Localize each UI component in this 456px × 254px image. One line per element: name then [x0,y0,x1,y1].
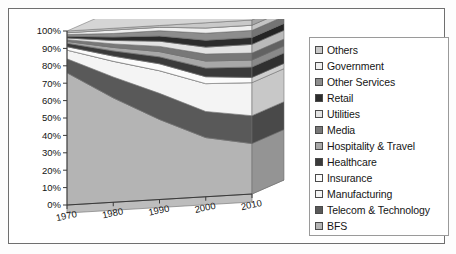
legend-item-label: Others [327,42,358,58]
legend-swatch-icon [315,174,323,182]
legend-item[interactable]: Utilities [315,106,445,122]
legend-item-label: Retail [327,90,353,106]
legend-item[interactable]: Retail [315,90,445,106]
y-tick-label: 30% [42,147,62,158]
legend-swatch-icon [315,126,323,134]
legend-item[interactable]: Hospitality & Travel [315,138,445,154]
chart-figure: 0%10%20%30%40%50%60%70%80%90%100%1970198… [0,0,456,254]
y-tick-label: 100% [37,25,62,36]
legend-item-label: Other Services [327,74,395,90]
legend-item-label: BFS [327,218,347,234]
y-tick-label: 60% [42,95,62,106]
legend-swatch-icon [315,222,323,230]
legend-item-label: Utilities [327,106,360,122]
legend-swatch-icon [315,62,323,70]
y-tick-label: 90% [42,43,62,54]
legend-item[interactable]: Telecom & Technology [315,202,445,218]
legend-item-label: Insurance [327,170,372,186]
legend-item-label: Media [327,122,355,138]
y-tick-label: 40% [42,130,62,141]
legend-swatch-icon [315,190,323,198]
legend-swatch-icon [315,46,323,54]
legend-item[interactable]: Insurance [315,170,445,186]
chart-svg: 0%10%20%30%40%50%60%70%80%90%100%1970198… [19,19,304,235]
stacked-area-chart-plot: 0%10%20%30%40%50%60%70%80%90%100%1970198… [19,19,304,235]
legend-swatch-icon [315,94,323,102]
chart-legend: OthersGovernmentOther ServicesRetailUtil… [309,37,449,236]
y-tick-label: 0% [47,199,61,210]
legend-item-label: Government [327,58,384,74]
y-tick-label: 70% [42,78,62,89]
y-tick-label: 50% [42,112,62,123]
legend-item[interactable]: Media [315,122,445,138]
legend-swatch-icon [315,142,323,150]
y-tick-label: 80% [42,60,62,71]
legend-item[interactable]: Government [315,58,445,74]
legend-item[interactable]: Other Services [315,74,445,90]
legend-item[interactable]: Healthcare [315,154,445,170]
legend-item[interactable]: Others [315,42,445,58]
legend-item[interactable]: Manufacturing [315,186,445,202]
legend-swatch-icon [315,158,323,166]
legend-item-label: Healthcare [327,154,377,170]
legend-swatch-icon [315,206,323,214]
figure-frame: 0%10%20%30%40%50%60%70%80%90%100%1970198… [8,8,445,244]
legend-item-label: Telecom & Technology [327,202,430,218]
legend-item[interactable]: BFS [315,218,445,234]
legend-swatch-icon [315,78,323,86]
y-tick-label: 10% [42,182,62,193]
y-tick-label: 20% [42,165,62,176]
legend-item-label: Manufacturing [327,186,392,202]
legend-item-label: Hospitality & Travel [327,138,415,154]
legend-swatch-icon [315,110,323,118]
